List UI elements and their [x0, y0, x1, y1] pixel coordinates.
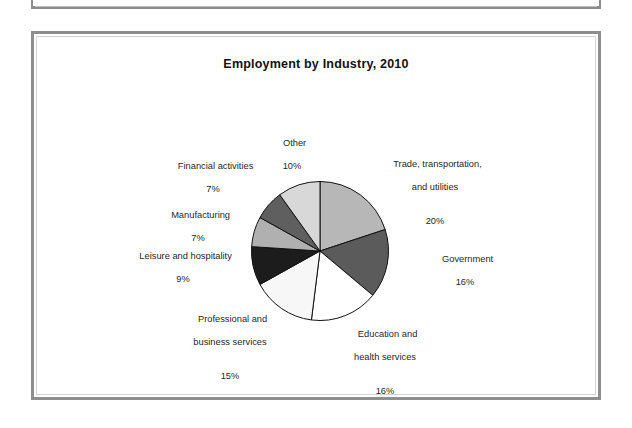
- pie-label-trade-line2: and utilities: [360, 182, 510, 193]
- pie-label-financial-value: 7%: [158, 184, 268, 195]
- pie-label-government-value: 16%: [420, 277, 510, 288]
- pie-label-government: Government 16%: [420, 243, 510, 300]
- pie-label-professional-line1: Professional and: [198, 314, 267, 324]
- pie-label-education-line2: health services: [330, 352, 440, 363]
- pie-label-professional-line2: business services: [170, 337, 290, 348]
- pie-label-government-name: Government: [442, 254, 493, 264]
- pie-label-trade-line1: Trade, transportation,: [393, 159, 482, 169]
- pie-label-professional-business-services: Professional and business services 15%: [170, 303, 290, 394]
- pie-label-trade-transportation-utilities: Trade, transportation, and utilities 20%: [360, 148, 510, 239]
- pie-label-financial-name: Financial activities: [178, 161, 253, 171]
- pie-label-other-name: Other: [283, 138, 306, 148]
- pie-label-trade-value: 20%: [360, 216, 510, 227]
- pie-label-education-value: 16%: [330, 386, 440, 397]
- pie-label-leisure-value: 9%: [118, 274, 248, 285]
- pie-label-education-health-services: Education and health services 16%: [330, 318, 440, 409]
- pie-label-education-line1: Education and: [358, 329, 417, 339]
- pie-label-manufacturing: Manufacturing 7%: [148, 199, 248, 256]
- preceding-figure-frame-edge: [31, 0, 601, 9]
- pie-label-manufacturing-name: Manufacturing: [171, 210, 230, 220]
- pie-label-manufacturing-value: 7%: [148, 233, 248, 244]
- pie-label-financial-activities: Financial activities 7%: [158, 150, 268, 207]
- chart-title: Employment by Industry, 2010: [37, 57, 595, 71]
- pie-label-professional-value: 15%: [170, 371, 290, 382]
